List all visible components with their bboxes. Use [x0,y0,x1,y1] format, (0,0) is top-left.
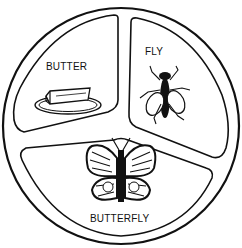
section-butterfly: BUTTERFLY [21,138,213,236]
label-butter: BUTTER [46,61,87,72]
outer-circle [3,8,239,244]
section-butter: BUTTER [14,15,118,132]
diagram-canvas: BUTTER FLY [0,0,242,248]
compound-word-diagram: BUTTER FLY [0,0,242,248]
label-butterfly: BUTTERFLY [90,213,150,224]
fly-icon [140,66,190,124]
section-fly: FLY [129,18,228,158]
butter-dish-icon [35,88,101,114]
label-fly: FLY [145,46,163,57]
butterfly-icon [87,138,156,202]
